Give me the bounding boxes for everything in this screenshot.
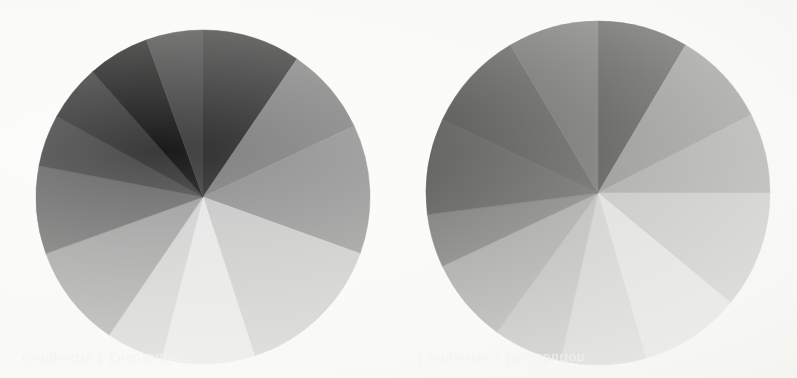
pie-chart-left [0,0,400,378]
page-canvas: Composite 1 Distribution Composite 2 Dis… [0,0,797,378]
pie-chart-left-svg [0,0,400,378]
ghost-caption-left: Composite 1 Distribution [22,350,382,367]
pie-chart-right-svg [400,0,797,378]
pie-chart-right [400,0,797,378]
ghost-caption-right: Composite 2 Distribution [418,350,788,367]
